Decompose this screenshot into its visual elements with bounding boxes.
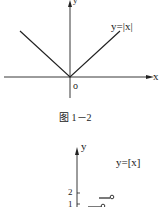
y-axis-2-label: y xyxy=(81,141,87,152)
x-axis-label: x xyxy=(153,71,159,82)
figure-caption: 图 1－2 xyxy=(59,113,92,123)
figure-floor-graph xyxy=(75,147,114,207)
figure-abs-graph xyxy=(4,0,154,98)
floor-function-label: y=[x] xyxy=(116,157,141,168)
y-tick-label-1: 1 xyxy=(68,200,73,207)
origin-label: o xyxy=(73,81,78,91)
diagram-canvas xyxy=(0,0,162,207)
y-axis-arrow-icon xyxy=(68,0,72,7)
y-tick-label-2: 2 xyxy=(68,188,73,197)
abs-function-label: y=|x| xyxy=(111,21,133,32)
y-axis-2-arrow-icon xyxy=(75,147,79,155)
y-axis-label: y xyxy=(73,0,78,5)
open-circle-icon-2 xyxy=(101,204,105,207)
open-circle-icon xyxy=(110,195,114,199)
